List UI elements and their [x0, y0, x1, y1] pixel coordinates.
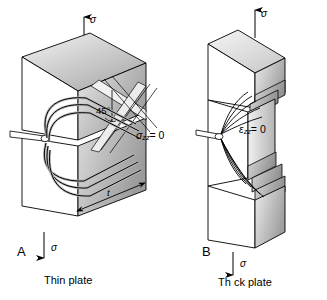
panel-b-strain-subscript: zz	[244, 127, 251, 136]
panel-b-letter: B	[202, 245, 211, 258]
panel-a-thin-plate	[10, 17, 157, 258]
panel-b-load-label-top: σ	[261, 9, 267, 19]
panel-b-caption: Th ck plate	[218, 277, 272, 288]
panel-a-letter: A	[17, 245, 26, 258]
panel-b-strain-condition-label: εzz= 0	[239, 124, 266, 136]
panel-b-strain-value: = 0	[251, 123, 266, 135]
panel-a-stress-value: = 0	[150, 129, 165, 141]
panel-a-load-label-top: σ	[90, 15, 96, 25]
panel-a-stress-condition-label: σzz= 0	[136, 130, 164, 142]
panel-b-block-lower	[208, 186, 285, 248]
panel-b-load-label-bottom: σ	[240, 259, 246, 269]
panel-a-thickness-label: t	[107, 188, 110, 198]
panel-a-angle-label: 45°	[96, 106, 110, 116]
figure-drawing	[0, 0, 327, 300]
panel-a-load-label-bottom: σ	[51, 243, 57, 253]
panel-a-stress-subscript: zz	[142, 133, 149, 142]
panel-a-caption: Thin plate	[44, 275, 92, 286]
fracture-plastic-zone-figure: σ 45° σzz= 0 t σ A Thin plate σ εzz= 0 σ…	[0, 0, 327, 300]
panel-b-thick-plate	[196, 10, 285, 275]
